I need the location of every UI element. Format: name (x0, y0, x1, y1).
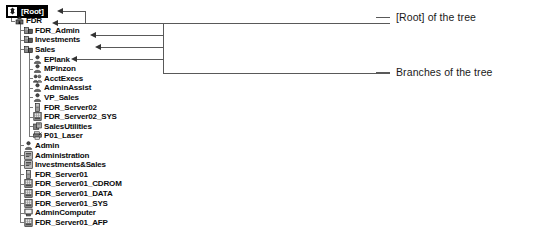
sales-connector (77, 59, 164, 60)
fdr-admin-connector (96, 35, 164, 36)
root-callout-label: [Root] of the tree (396, 11, 476, 23)
tree-guide-stub (29, 117, 33, 118)
tree-guide-stub (20, 193, 24, 194)
diagram-canvas: [Root]FDRFDR_AdminInvestmentsSalesEPlank… (0, 0, 545, 240)
branches-callout-label: Branches of the tree (396, 66, 493, 78)
tree-guide-stub (20, 49, 24, 50)
tree-guide-line (29, 50, 30, 136)
tree-guide-stub (20, 174, 24, 175)
tree-guide-stub (20, 155, 24, 156)
tree-guide-stub (20, 184, 24, 185)
tree-guide-stub (29, 107, 33, 108)
tree-guide-stub (29, 126, 33, 127)
tree-guide-stub (11, 21, 15, 22)
organizational-unit-icon (24, 45, 33, 54)
tree-guide-stub (29, 69, 33, 70)
investments-connector (101, 47, 164, 48)
tree-guide-stub (20, 145, 24, 146)
tree-node-fdr-server01-afp[interactable]: FDR_Server01_AFP (24, 217, 108, 228)
tree-guide-stub (29, 78, 33, 79)
tree-guide-stub (20, 203, 24, 204)
tree-guide-stub (20, 30, 24, 31)
tree-guide-stub (29, 97, 33, 98)
tree-guide-stub (29, 59, 33, 60)
root-connector-h1 (63, 11, 86, 12)
fdr-connector (58, 23, 164, 24)
tree-guide-stub (20, 40, 24, 41)
tree-guide-line (20, 21, 21, 223)
tree-guide-stub (20, 213, 24, 214)
nds-tree[interactable]: [Root]FDRFDR_AdminInvestmentsSalesEPlank… (0, 0, 200, 240)
tree-node-label: FDR_Server01_AFP (35, 217, 108, 228)
root-callout-dash (376, 17, 390, 18)
volume-icon (24, 218, 33, 227)
branches-callout-dash (376, 72, 390, 73)
tree-guide-stub (29, 88, 33, 89)
organization-icon (15, 16, 24, 25)
tree-guide-stub (20, 165, 24, 166)
tree-guide-stub (29, 136, 33, 137)
branches-collector-v (163, 23, 164, 74)
branches-connector-h (163, 73, 390, 74)
tree-guide-stub (20, 222, 24, 223)
